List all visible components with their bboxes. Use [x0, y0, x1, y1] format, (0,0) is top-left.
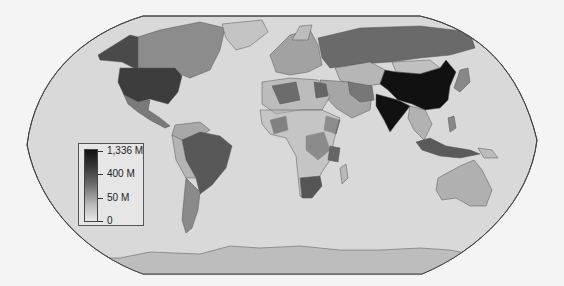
legend-label-400m: 400 M [107, 169, 135, 179]
country-tanzania [328, 146, 340, 162]
legend-tick-50m [98, 198, 103, 199]
legend-tick-max [98, 151, 103, 152]
legend-tick-400m [98, 174, 103, 175]
legend-tick-min [98, 221, 103, 222]
region-antarctica [0, 246, 564, 286]
legend-label-max: 1,336 M [107, 146, 143, 156]
legend-label-min: 0 [107, 216, 113, 226]
legend-color-bar [84, 149, 98, 222]
legend-label-50m: 50 M [107, 193, 129, 203]
color-legend: 1,336 M 400 M 50 M 0 [78, 143, 144, 226]
country-egypt [314, 82, 328, 98]
